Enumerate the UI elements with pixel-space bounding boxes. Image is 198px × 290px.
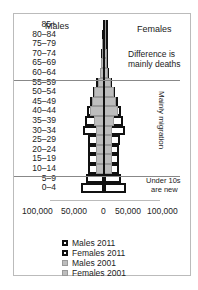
legend-item: Females 2001 (62, 268, 126, 278)
annotation-deaths-2: mainly deaths (128, 60, 180, 69)
age-label: 35–39 (14, 116, 56, 125)
bar-females-2001 (104, 164, 112, 174)
bar-males-2001 (90, 106, 104, 116)
legend-item: Females 2011 (62, 248, 126, 258)
swatch-icon (62, 250, 68, 256)
swatch-icon (62, 240, 68, 246)
bar-females-2001 (104, 106, 118, 116)
legend: Males 2011 Females 2011 Males 2001 Femal… (62, 238, 126, 278)
age-label: 25–29 (14, 135, 56, 144)
tick-m100k: 100,000 (22, 206, 53, 216)
age-label: 50–54 (14, 87, 56, 96)
x-axis (50, 200, 160, 201)
tick-100k: 100,000 (147, 206, 178, 216)
bar-males-2011 (81, 183, 104, 193)
annotation-under10-2: are new (151, 185, 178, 194)
bar-females-2001 (104, 116, 114, 126)
annotation-migration: Mainly migration (157, 91, 166, 149)
annotation-deaths-1: Difference is (128, 50, 175, 59)
age-label: 0–4 (14, 183, 56, 192)
age-label: 10–14 (14, 164, 56, 173)
bar-females-2011 (104, 183, 126, 193)
age-label: 75–79 (14, 39, 56, 48)
bar-females-2001 (104, 145, 112, 155)
swatch-icon (62, 270, 68, 276)
age-label: 60–64 (14, 68, 56, 77)
annotation-under10-1: Under 10s (146, 176, 181, 185)
females-label: Females (137, 25, 172, 34)
bar-females-2001 (104, 135, 112, 145)
tick-50k: 50,000 (115, 206, 141, 216)
bar-females-2001 (104, 154, 112, 164)
bar-females-2001 (104, 126, 112, 136)
bar-females-2001 (104, 97, 116, 107)
legend-item: Males 2011 (62, 238, 126, 248)
divider-60 (14, 80, 180, 81)
divider-10 (14, 176, 180, 177)
bar-females-2001 (104, 87, 114, 97)
tick-m50k: 50,000 (61, 206, 87, 216)
tick-0: 0 (101, 206, 106, 216)
swatch-icon (62, 260, 68, 266)
legend-item: Males 2001 (62, 258, 126, 268)
males-label: Males (45, 22, 69, 31)
center-axis (103, 20, 105, 193)
